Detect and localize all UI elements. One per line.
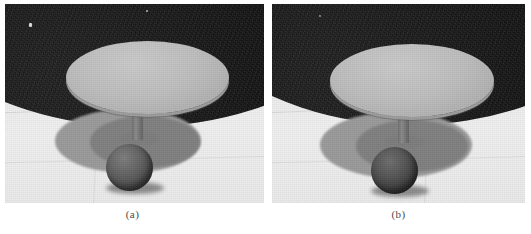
tabletop-disc bbox=[330, 44, 494, 117]
image-speck-artifact bbox=[29, 23, 32, 27]
panel-caption-a: (a) bbox=[0, 208, 265, 220]
image-speck-artifact bbox=[319, 15, 321, 17]
image-speck-artifact bbox=[146, 10, 148, 12]
figure-container: (a) (b) bbox=[0, 0, 531, 234]
tabletop-disc bbox=[66, 41, 229, 114]
panel-caption-b: (b) bbox=[266, 208, 531, 220]
sphere-object bbox=[106, 144, 153, 191]
rendered-scene-b bbox=[272, 4, 525, 203]
figure-panel-a: (a) bbox=[0, 0, 265, 234]
sphere-object bbox=[371, 147, 418, 194]
rendered-scene-a bbox=[5, 4, 264, 203]
figure-panel-b: (b) bbox=[266, 0, 531, 234]
